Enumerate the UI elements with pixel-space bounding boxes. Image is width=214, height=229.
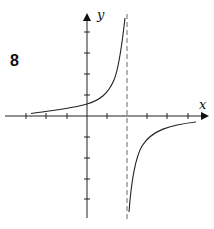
- y-axis-arrow-icon: [83, 13, 91, 21]
- curve-left-branch: [31, 18, 125, 114]
- curve-right-branch: [129, 122, 196, 212]
- y-axis-label: y: [96, 7, 105, 22]
- x-axis-label: x: [199, 97, 207, 112]
- x-axis-arrow-icon: [201, 112, 209, 120]
- graph: y x: [0, 0, 214, 229]
